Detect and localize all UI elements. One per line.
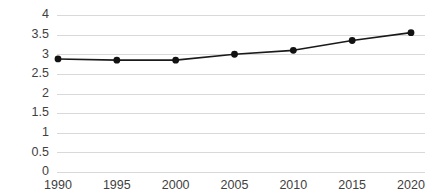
chart-canvas: 00.511.522.533.54 1990199520002005201020… xyxy=(0,0,439,193)
line-chart: 00.511.522.533.54 1990199520002005201020… xyxy=(0,0,439,193)
y-tick-label: 0.5 xyxy=(32,145,49,159)
series-marker-group xyxy=(55,29,415,63)
x-tick-label: 2020 xyxy=(397,178,425,192)
y-axis-tick-labels: 00.511.522.533.54 xyxy=(32,7,49,178)
data-point-marker xyxy=(349,37,356,44)
y-tick-label: 2 xyxy=(42,86,49,100)
data-point-marker xyxy=(408,29,415,36)
y-tick-label: 3 xyxy=(42,47,49,61)
data-point-marker xyxy=(172,57,179,64)
data-point-marker xyxy=(290,47,297,54)
y-tick-label: 3.5 xyxy=(32,27,49,41)
x-axis-tick-labels: 1990199520002005201020152020 xyxy=(44,178,425,192)
x-tick-label: 2000 xyxy=(162,178,190,192)
x-tick-label: 2015 xyxy=(338,178,366,192)
y-tick-label: 0 xyxy=(42,164,49,178)
data-point-marker xyxy=(231,51,238,58)
y-tick-label: 2.5 xyxy=(32,66,49,80)
y-tick-label: 1 xyxy=(42,125,49,139)
x-tick-label: 1995 xyxy=(103,178,131,192)
x-tick-label: 1990 xyxy=(44,178,72,192)
data-point-marker xyxy=(55,56,62,63)
y-tick-label: 1.5 xyxy=(32,105,49,119)
gridline-group xyxy=(57,16,425,173)
data-point-marker xyxy=(113,57,120,64)
y-tick-label: 4 xyxy=(42,7,49,21)
x-tick-label: 2005 xyxy=(221,178,249,192)
x-tick-label: 2010 xyxy=(279,178,307,192)
